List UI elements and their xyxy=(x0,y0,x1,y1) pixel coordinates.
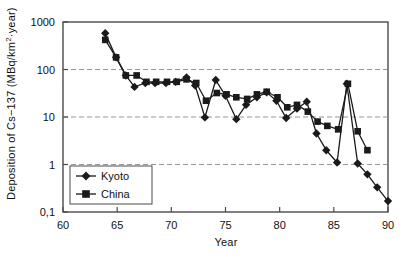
data-point-square xyxy=(284,104,291,111)
data-point-square xyxy=(364,147,371,154)
y-tick-label: 0,1 xyxy=(40,206,55,218)
data-point-square xyxy=(223,91,230,98)
legend-label-china: China xyxy=(101,188,131,200)
deposition-line-chart: 0,11101001000 60657075808590 Deposition … xyxy=(0,0,410,266)
square-marker-icon xyxy=(82,190,90,198)
y-axis-title-text: Deposition of Cs−137 (MBq/km2·year) xyxy=(4,7,17,200)
y-tick-label: 1000 xyxy=(31,16,55,28)
data-point-square xyxy=(173,79,180,86)
x-tick-label: 65 xyxy=(111,219,123,231)
x-tick-label: 80 xyxy=(274,219,286,231)
data-point-square xyxy=(193,80,200,87)
data-point-square xyxy=(314,118,321,125)
chart-figure: 0,11101001000 60657075808590 Deposition … xyxy=(0,0,410,266)
x-tick-label: 60 xyxy=(57,219,69,231)
data-point-square xyxy=(203,97,210,104)
y-tick-label: 1 xyxy=(49,159,55,171)
x-tick-label: 70 xyxy=(165,219,177,231)
data-point-square xyxy=(294,102,301,109)
y-tick-label: 10 xyxy=(43,111,55,123)
data-point-square xyxy=(244,96,251,103)
data-point-square xyxy=(123,72,130,79)
data-point-square xyxy=(153,79,160,86)
legend-label-kyoto: Kyoto xyxy=(101,170,129,182)
y-tick-label: 100 xyxy=(37,64,55,76)
data-point-square xyxy=(102,37,109,44)
data-point-square xyxy=(214,90,221,97)
x-tick-label: 75 xyxy=(219,219,231,231)
data-point-square xyxy=(274,94,281,101)
data-point-square xyxy=(183,76,190,83)
data-point-square xyxy=(164,79,171,86)
data-point-square xyxy=(143,79,150,86)
data-point-square xyxy=(324,123,331,130)
x-axis-title: Year xyxy=(214,236,237,248)
data-point-square xyxy=(335,126,342,133)
x-tick-label: 85 xyxy=(328,219,340,231)
y-axis-title: Deposition of Cs−137 (MBq/km2·year) xyxy=(4,7,17,200)
data-point-square xyxy=(305,108,312,115)
data-point-square xyxy=(254,91,261,98)
data-point-square xyxy=(354,128,361,135)
data-point-square xyxy=(133,72,140,79)
x-tick-label: 90 xyxy=(382,219,394,231)
data-point-square xyxy=(345,81,352,88)
data-point-square xyxy=(263,88,270,95)
chart-legend: Kyoto China xyxy=(70,166,152,204)
data-point-square xyxy=(113,54,120,61)
data-point-square xyxy=(233,94,240,101)
